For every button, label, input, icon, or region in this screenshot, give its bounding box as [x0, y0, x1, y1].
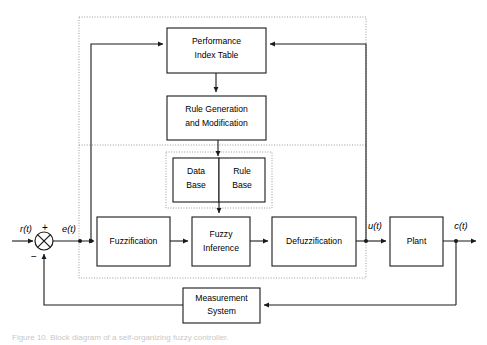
signal-label-feedback-sign: − — [31, 251, 37, 262]
block-label-rule-base-line1: Rule — [233, 166, 251, 176]
signal-label-output-signal: c(t) — [454, 221, 467, 231]
block-fuzzification[interactable]: Fuzzification — [97, 217, 170, 266]
block-rule-generation[interactable]: Rule Generation and Modification — [167, 96, 266, 140]
block-label-data-base-line1: Data — [187, 166, 205, 176]
wire-control-to-performance-index-table — [270, 44, 366, 241]
block-data-base[interactable]: Data Base — [173, 158, 219, 202]
block-label-performance-index-table-line1: Performance — [192, 36, 241, 46]
block-defuzzification[interactable]: Defuzzification — [272, 217, 356, 266]
block-performance-index-table[interactable]: Performance Index Table — [167, 28, 266, 73]
figure-caption: Figure 10. Block diagram of a self-organ… — [12, 333, 312, 345]
block-label-fuzzy-inference-line1: Fuzzy — [210, 229, 234, 239]
block-label-measurement-system-line1: Measurement — [195, 293, 248, 303]
block-label-data-base-line2: Base — [186, 180, 206, 190]
signal-label-error-signal: e(t) — [62, 224, 76, 234]
block-label-fuzzification: Fuzzification — [110, 236, 158, 246]
signal-label-reference-input: r(t) — [20, 224, 32, 234]
block-label-rule-base-line2: Base — [232, 180, 252, 190]
node-error-tap — [78, 239, 82, 243]
signal-label-control-signal: u(t) — [368, 221, 382, 231]
block-label-defuzzification: Defuzzification — [286, 236, 342, 246]
block-label-rule-generation-line1: Rule Generation — [185, 104, 248, 114]
block-label-plant: Plant — [407, 236, 427, 246]
block-label-performance-index-table-line2: Index Table — [195, 50, 239, 60]
block-fuzzy-inference[interactable]: Fuzzy Inference — [192, 217, 250, 266]
block-label-measurement-system-line2: System — [207, 306, 236, 316]
block-measurement-system[interactable]: Measurement System — [183, 288, 260, 323]
signal-label-reference-sign: + — [42, 222, 48, 233]
block-rule-base[interactable]: Rule Base — [219, 158, 265, 202]
diagram-canvas: Performance Index Table Rule Generation … — [0, 0, 487, 345]
summing-junction — [35, 232, 53, 250]
block-plant[interactable]: Plant — [390, 217, 443, 266]
block-label-rule-generation-line2: and Modification — [185, 118, 248, 128]
block-diagram-svg: Performance Index Table Rule Generation … — [0, 0, 487, 345]
block-label-fuzzy-inference-line2: Inference — [203, 243, 239, 253]
wire-error-to-performance-index-table — [91, 44, 163, 241]
